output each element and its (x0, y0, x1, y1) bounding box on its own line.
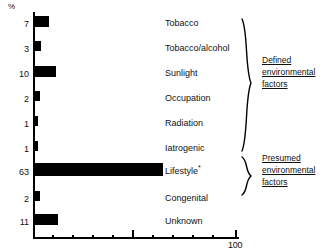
x-axis-tick-60 (152, 235, 154, 239)
footnote-marker: * (198, 164, 201, 171)
bar-lifestyle (35, 163, 163, 176)
bar-sunlight (35, 66, 56, 77)
category-label-text: Tobacco (165, 18, 199, 28)
category-label-text: Radiation (165, 118, 203, 128)
category-label-occupation: Occupation (165, 93, 211, 104)
category-label-text: Iatrogenic (165, 143, 205, 153)
x-axis-tick-90 (212, 235, 214, 239)
bar-value-label: 2 (0, 94, 29, 104)
x-axis-tick-30 (92, 235, 94, 239)
group-annotation-presumed: Presumed environmental factors (262, 152, 330, 188)
category-label-sunlight: Sunlight (165, 68, 198, 79)
bar-value-label: 2 (0, 194, 29, 204)
group-annotation-line-1: Presumed (262, 152, 330, 164)
bar-value-label: 3 (0, 44, 29, 54)
chart-row-tobacco: 7 Tobacco (0, 13, 330, 35)
category-label-text: Lifestyle (165, 166, 198, 176)
bar-occupation (35, 91, 40, 101)
y-axis-unit-label: % (8, 2, 15, 11)
group-annotation-defined: Defined environmental factors (262, 54, 330, 90)
category-label-tobacco: Tobacco (165, 18, 199, 29)
bar-value-label: 11 (0, 217, 29, 227)
category-label-text: Tobacco/alcohol (165, 43, 230, 53)
bar-chart: % 100 7 Tobacco 3 Tobacco/alcohol 10 Sun… (0, 0, 330, 249)
group-annotation-line-3: factors (262, 78, 330, 90)
x-axis-tick-20 (72, 235, 74, 239)
chart-row-congenital: 2 Congenital (0, 188, 330, 210)
chart-row-unknown: 11 Unknown (0, 211, 330, 233)
category-label-unknown: Unknown (165, 216, 203, 227)
category-label-text: Sunlight (165, 68, 198, 78)
x-axis-tick-10 (52, 235, 54, 239)
chart-row-occupation: 2 Occupation (0, 88, 330, 110)
category-label-iatrogenic: Iatrogenic (165, 143, 205, 154)
bar-value-label: 1 (0, 119, 29, 129)
category-label-radiation: Radiation (165, 118, 203, 129)
brace-defined-environmental (240, 17, 256, 153)
category-label-tobacco-alcohol: Tobacco/alcohol (165, 43, 230, 54)
bar-iatrogenic (35, 141, 38, 151)
bar-value-label: 7 (0, 19, 29, 29)
bar-tobacco-alcohol (35, 41, 41, 51)
x-axis-tick-80 (192, 235, 194, 239)
bar-value-label: 10 (0, 69, 29, 79)
bar-unknown (35, 214, 58, 225)
bar-congenital (35, 191, 40, 201)
group-annotation-line-2: environmental (262, 66, 330, 78)
x-axis-end-label: 100 (228, 240, 242, 249)
bar-tobacco (35, 16, 49, 27)
chart-row-radiation: 1 Radiation (0, 113, 330, 135)
group-annotation-line-3: factors (262, 176, 330, 188)
category-label-text: Occupation (165, 93, 211, 103)
bar-radiation (35, 116, 38, 126)
group-annotation-line-1: Defined (262, 54, 330, 66)
group-annotation-line-2: environmental (262, 164, 330, 176)
category-label-lifestyle: Lifestyle* (165, 166, 201, 177)
brace-presumed-environmental (240, 155, 256, 197)
bar-value-label: 63 (0, 167, 29, 177)
category-label-congenital: Congenital (165, 193, 208, 204)
x-axis-tick-70 (172, 235, 174, 239)
bar-value-label: 1 (0, 144, 29, 154)
category-label-text: Unknown (165, 216, 203, 226)
x-axis-tick-40 (112, 235, 114, 239)
x-axis-line (33, 237, 239, 239)
category-label-text: Congenital (165, 193, 208, 203)
